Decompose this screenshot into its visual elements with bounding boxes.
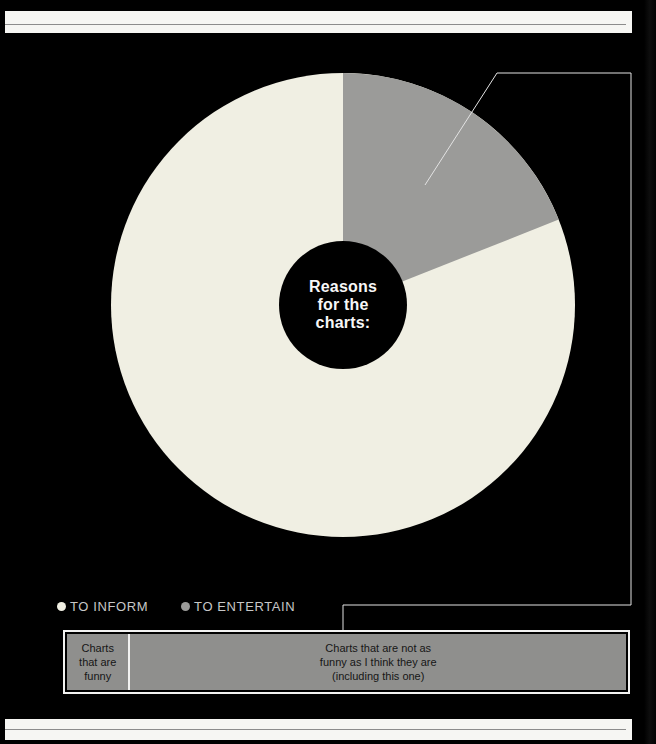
page-edge-shadow — [644, 0, 656, 744]
top-rule-band — [5, 11, 632, 33]
pie-slice-to-entertain — [343, 73, 559, 305]
legend-label-to-entertain: TO ENTERTAIN — [194, 599, 295, 614]
callout-line — [343, 73, 631, 630]
legend-dot-inform-icon — [57, 602, 66, 611]
funny-bar-chart: Charts that are funny Charts that are no… — [63, 630, 630, 694]
book-page: Reasons for the charts: TO INFORM TO ENT… — [0, 0, 656, 744]
bottom-rule-line — [5, 729, 626, 730]
legend-dot-entertain-icon — [181, 602, 190, 611]
bar-segment-not-as-funny: Charts that are not as funny as I think … — [130, 634, 626, 690]
chart-title: Reasons for the charts: — [283, 278, 403, 332]
legend-item-to-entertain: TO ENTERTAIN — [181, 599, 295, 614]
legend-item-to-inform: TO INFORM — [57, 599, 148, 614]
legend: TO INFORM TO ENTERTAIN — [57, 599, 295, 614]
bottom-rule-band — [5, 719, 632, 740]
legend-label-to-inform: TO INFORM — [70, 599, 148, 614]
bar-inner: Charts that are funny Charts that are no… — [67, 634, 626, 690]
top-rule-line — [5, 24, 626, 25]
bar-segment-funny: Charts that are funny — [67, 634, 128, 690]
